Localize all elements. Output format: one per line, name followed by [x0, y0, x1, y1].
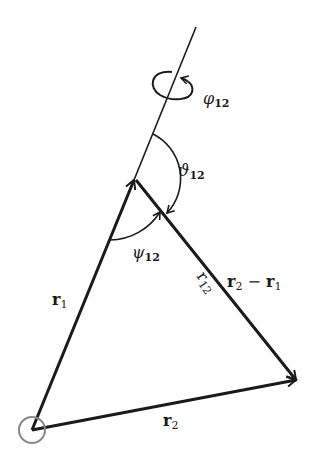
psi-angle-arc [110, 212, 160, 240]
r1-label: r1 [52, 290, 67, 311]
r2-label: r2 [163, 411, 178, 432]
theta-angle-arc [153, 134, 181, 213]
r2-minus-r1-label: r2 − r1 [227, 272, 281, 293]
phi-label: φ12 [203, 89, 230, 110]
theta-label: ϑ12 [178, 161, 205, 182]
vector-r1 [32, 180, 134, 430]
rotation-axis-line [134, 27, 196, 180]
vector-diagram: φ12 ϑ12 ψ12 r1 r2 r2 − r1 r12 [0, 0, 317, 454]
psi-label: ψ12 [132, 243, 160, 264]
